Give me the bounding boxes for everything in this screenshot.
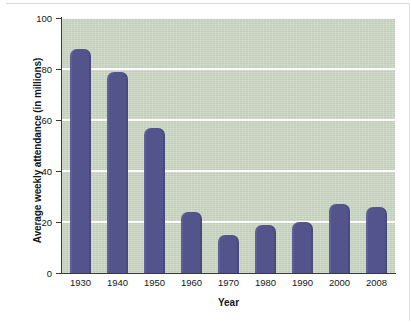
y-tick-label-100: 100 (12, 13, 52, 24)
x-tick-label-2008: 2008 (357, 277, 397, 288)
chart-page: Average weekly attendance (in millions) … (0, 0, 411, 324)
bar-1940 (107, 72, 128, 273)
y-axis-line (61, 17, 62, 274)
y-tick-label-20: 20 (12, 217, 52, 228)
gridline-80 (62, 68, 395, 70)
x-tick-label-1970: 1970 (209, 277, 249, 288)
plot-area (62, 18, 395, 273)
bar-1960 (181, 212, 202, 273)
bar-1950 (144, 128, 165, 273)
bar-2008 (366, 207, 387, 273)
gridline-100 (62, 18, 395, 19)
y-tick-mark-0 (56, 273, 62, 274)
x-tick-label-1990: 1990 (283, 277, 323, 288)
x-axis-title: Year (62, 297, 395, 308)
x-tick-label-1940: 1940 (98, 277, 138, 288)
x-axis-line (61, 273, 396, 274)
y-tick-label-80: 80 (12, 64, 52, 75)
bar-1930 (70, 49, 91, 273)
x-tick-label-1930: 1930 (61, 277, 101, 288)
bar-1980 (255, 225, 276, 273)
bar-1970 (218, 235, 239, 273)
bar-2000 (329, 204, 350, 273)
page-top-divider (6, 3, 409, 4)
y-tick-mark-60 (56, 120, 62, 121)
y-tick-label-40: 40 (12, 166, 52, 177)
x-tick-label-1950: 1950 (135, 277, 175, 288)
y-tick-mark-100 (56, 18, 62, 19)
x-tick-label-1960: 1960 (172, 277, 212, 288)
y-tick-mark-40 (56, 171, 62, 172)
y-tick-label-0: 0 (12, 268, 52, 279)
page-right-divider (409, 3, 410, 321)
y-tick-mark-80 (56, 69, 62, 70)
y-tick-mark-20 (56, 222, 62, 223)
x-tick-label-1980: 1980 (246, 277, 286, 288)
bar-1990 (292, 222, 313, 273)
x-tick-label-2000: 2000 (320, 277, 360, 288)
y-tick-label-60: 60 (12, 115, 52, 126)
